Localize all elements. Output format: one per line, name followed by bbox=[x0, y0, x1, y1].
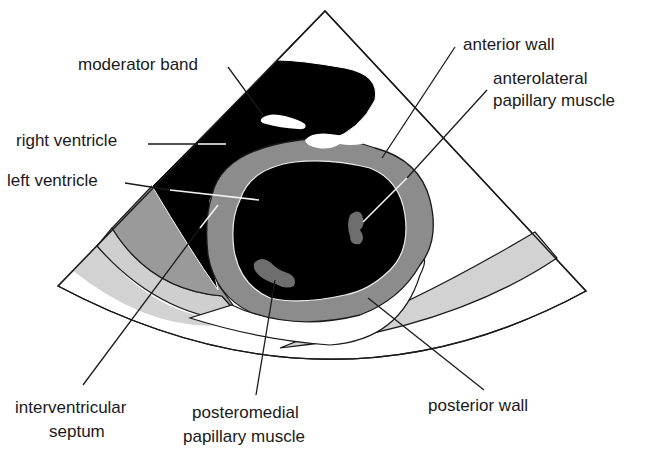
label-moderator-band: moderator band bbox=[78, 55, 198, 74]
label-left-ventricle: left ventricle bbox=[7, 171, 98, 190]
label-interventricular-line1: interventricular bbox=[15, 398, 127, 417]
label-right-ventricle: right ventricle bbox=[16, 131, 117, 150]
label-posterior-wall: posterior wall bbox=[428, 396, 528, 415]
echo-short-axis-diagram: moderator band right ventricle left vent… bbox=[0, 0, 646, 451]
label-anterior-wall: anterior wall bbox=[463, 35, 555, 54]
label-posteromedial-line1: posteromedial bbox=[192, 403, 299, 422]
label-anterolateral-line2: papillary muscle bbox=[493, 91, 615, 110]
label-anterolateral-line1: anterolateral bbox=[493, 69, 588, 88]
label-posteromedial-line2: papillary muscle bbox=[183, 427, 305, 446]
label-interventricular-line2: septum bbox=[49, 422, 105, 441]
